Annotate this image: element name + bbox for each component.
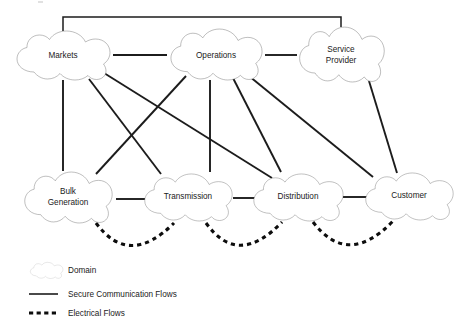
legend-label-secure-communication-flows: Secure Communication Flows (68, 290, 177, 299)
domain-label-customer: Customer (391, 191, 427, 200)
flow-markets-service-provider (63, 17, 341, 31)
flow-service-provider-customer (369, 81, 397, 173)
cloud-icon (30, 262, 63, 278)
domain-label-operations: Operations (196, 51, 236, 60)
domain-label-bulk-generation-line1: Bulk (60, 187, 77, 196)
diagram-canvas: Markets Operations Service Provider Bulk… (0, 0, 466, 327)
domain-node-bulk-generation[interactable]: Bulk Generation (25, 172, 112, 223)
scan-artifact (38, 1, 43, 3)
electrical-flow-transmission-distribution (206, 222, 282, 245)
electrical-flow-distribution-customer (313, 221, 393, 245)
domain-label-bulk-generation-line2: Generation (48, 198, 89, 207)
domain-node-customer[interactable]: Customer (366, 173, 453, 220)
domain-label-service-provider-line2: Provider (326, 56, 357, 65)
legend-item-electrical-flows: Electrical Flows (29, 309, 125, 318)
domain-node-distribution[interactable]: Distribution (254, 174, 343, 221)
electrical-flow-layer (96, 221, 393, 246)
legend: Domain Secure Communication Flows Electr… (29, 262, 177, 318)
domain-node-service-provider[interactable]: Service Provider (300, 27, 385, 82)
domain-label-markets: Markets (48, 51, 77, 60)
cloud-icon (300, 27, 385, 82)
domain-node-operations[interactable]: Operations (171, 29, 262, 80)
domain-label-transmission: Transmission (164, 192, 213, 201)
domain-node-markets[interactable]: Markets (17, 31, 110, 80)
legend-item-domain: Domain (30, 262, 96, 278)
domain-label-distribution: Distribution (278, 192, 319, 201)
domain-label-service-provider-line1: Service (327, 45, 355, 54)
legend-label-electrical-flows: Electrical Flows (68, 309, 125, 318)
flow-markets-transmission (89, 79, 161, 174)
flow-operations-bulk-generation (96, 76, 186, 174)
flow-markets-distribution (104, 73, 272, 178)
legend-item-secure-communication-flows: Secure Communication Flows (29, 290, 177, 299)
domain-node-transmission[interactable]: Transmission (145, 174, 232, 221)
electrical-flow-bulk-generation-transmission (96, 223, 174, 246)
smart-grid-domains-diagram: Markets Operations Service Provider Bulk… (0, 0, 466, 327)
flow-operations-customer (249, 76, 373, 177)
legend-label-domain: Domain (68, 266, 97, 275)
